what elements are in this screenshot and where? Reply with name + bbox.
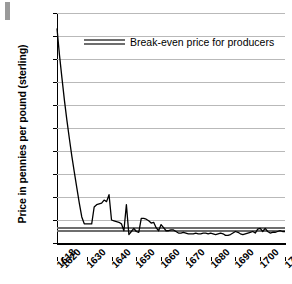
x-tick-label: 1640 — [110, 247, 133, 270]
chart-container: Price in pennies per pound (sterling) 03… — [0, 0, 292, 284]
x-tick-label: 1620 — [60, 247, 83, 270]
y-axis-title: Price in pennies per pound (sterling) — [16, 24, 28, 244]
legend-label-breakeven: Break-even price for producers — [130, 36, 274, 48]
x-tick-label: 1690 — [233, 247, 256, 270]
x-axis-line — [57, 243, 286, 245]
x-tick-label: 1660 — [159, 247, 182, 270]
x-tick-label: 1700 — [258, 247, 281, 270]
x-tick-label: 1680 — [209, 247, 232, 270]
breakeven-legend-swatch-icon — [84, 39, 125, 45]
x-tick-label: 1710 — [283, 247, 292, 270]
corner-mark-decoration — [5, 2, 10, 20]
legend: Break-even price for producers — [84, 36, 274, 48]
x-tick-label: 1630 — [85, 247, 108, 270]
y-tick-mark — [53, 243, 57, 244]
x-tick-label: 1670 — [184, 247, 207, 270]
x-tick-label: 1650 — [134, 247, 157, 270]
price-line-path — [57, 28, 285, 235]
